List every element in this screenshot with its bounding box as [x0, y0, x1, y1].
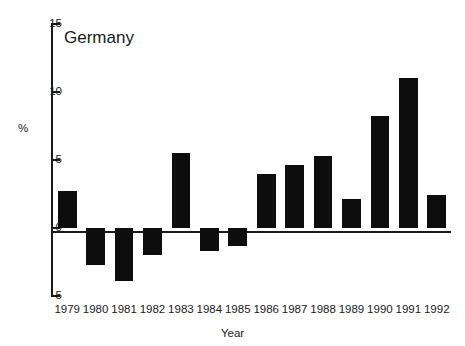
x-axis-tick-label: 1982: [138, 303, 166, 316]
x-axis-tick-labels: 1979198019811982198319841985198619871988…: [53, 303, 451, 319]
x-axis-tick-label: 1987: [280, 303, 308, 316]
bar: [228, 228, 247, 246]
plot-area: [53, 24, 451, 296]
x-axis-tick-label: 1979: [53, 303, 81, 316]
x-axis-tick-label: 1986: [252, 303, 280, 316]
bar: [314, 156, 333, 228]
bar: [200, 228, 219, 251]
x-axis-tick-label: 1992: [423, 303, 451, 316]
x-axis-tick-label: 1983: [167, 303, 195, 316]
bar: [143, 228, 162, 255]
x-axis-tick-label: 1985: [224, 303, 252, 316]
bar: [371, 116, 390, 228]
bar: [399, 78, 418, 228]
bar-chart: 151050-5 % Germany 197919801981198219831…: [0, 0, 465, 346]
x-axis-title: Year: [0, 327, 465, 340]
x-axis-tick-label: 1981: [110, 303, 138, 316]
bar: [285, 165, 304, 228]
x-axis-tick-label: 1984: [195, 303, 223, 316]
x-axis-tick-label: 1991: [394, 303, 422, 316]
bar: [342, 199, 361, 228]
x-axis-tick-label: 1988: [309, 303, 337, 316]
x-axis-tick-label: 1980: [81, 303, 109, 316]
bar: [86, 228, 105, 265]
y-axis-title: %: [18, 122, 28, 134]
chart-title-annotation: Germany: [64, 28, 134, 48]
bar: [172, 153, 191, 228]
bar: [427, 195, 446, 228]
bar: [115, 228, 134, 281]
x-axis-tick-label: 1989: [337, 303, 365, 316]
bar: [58, 191, 77, 228]
bar: [257, 174, 276, 228]
x-axis-tick-label: 1990: [366, 303, 394, 316]
